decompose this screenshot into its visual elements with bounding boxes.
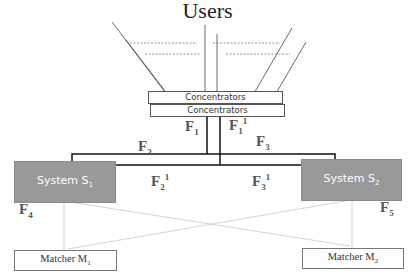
- flow-label-f5: F5: [380, 199, 394, 218]
- flow-label-f2-prime: F21: [151, 172, 169, 192]
- system-s2-label: System S2: [324, 172, 380, 187]
- flow-label-f1-prime: F11: [229, 116, 247, 136]
- flow-label-f1: F1: [185, 118, 199, 137]
- flow-label-f3: F3: [256, 133, 270, 152]
- matcher-m2-label: Matcher M2: [328, 251, 378, 265]
- matcher-m1-box: Matcher M1: [14, 250, 117, 271]
- concentrators-label: Concentrators: [185, 92, 245, 102]
- users-label: Users: [0, 0, 415, 24]
- concentrators-box-2: Concentrators: [150, 104, 285, 117]
- system-s2-box: System S2: [301, 159, 402, 201]
- system-s1-box: System S1: [14, 161, 116, 203]
- flow-label-f4: F4: [19, 201, 33, 220]
- concentrators-label: Concentrators: [187, 105, 247, 115]
- architecture-diagram: Users Concentrators Concentrators System…: [0, 0, 415, 280]
- matcher-m2-box: Matcher M2: [302, 248, 404, 269]
- flow-label-f3-prime: F31: [252, 172, 270, 192]
- system-s1-label: System S1: [37, 174, 93, 189]
- concentrators-box-1: Concentrators: [148, 91, 283, 104]
- matcher-m1-label: Matcher M1: [40, 253, 90, 267]
- flow-label-f2: F2: [138, 138, 152, 157]
- connector-lines: [0, 0, 415, 280]
